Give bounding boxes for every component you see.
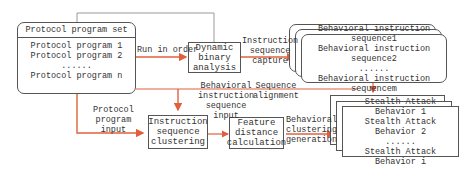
protocol-program-item: Protocol program 1: [18, 41, 135, 51]
node-label: calculation: [227, 138, 286, 148]
label-line: Behavioral: [286, 115, 337, 125]
label-line: Instruction: [242, 36, 298, 46]
node-label: clustering: [151, 137, 205, 147]
label-line: Behavioral: [198, 81, 254, 91]
stealth-item: Stealth Attack Behavior i: [343, 147, 458, 167]
sequence-item: Behavioral instruction sequence1: [302, 24, 446, 44]
behavioral-instruction-sequence-input-label: Behavioral instruction sequence input: [198, 81, 254, 121]
behavioral-sequence-list: Behavioral instruction sequence1 Behavio…: [301, 34, 447, 83]
node-label: analysis: [193, 63, 236, 73]
behavioral-clustering-generation-label: Behavioral clustering generation: [286, 115, 337, 145]
label-line: alignment: [253, 91, 299, 101]
label-line: clustering: [286, 125, 337, 135]
label-line: sequence: [198, 101, 254, 111]
stealth-item: Stealth Attack Behavior 2: [343, 117, 458, 137]
sequence-alignment-label: Sequence alignment: [253, 81, 299, 101]
label-line: capture: [242, 56, 298, 66]
label-line: program: [93, 115, 134, 125]
sequence-item: Behavioral instruction sequencem: [302, 74, 446, 94]
protocol-program-set: Protocol program set Protocol program 1 …: [17, 22, 136, 94]
stealth-item: Stealth Attack Behavior 1: [343, 97, 458, 117]
run-in-order-label: Run in order: [137, 45, 198, 55]
protocol-program-item: Protocol program n: [18, 71, 135, 81]
protocol-program-item: Protocol program 2: [18, 51, 135, 61]
node-label: distance: [235, 128, 278, 138]
sequence-ellipsis: ......: [359, 64, 390, 74]
label-line: input: [198, 111, 254, 121]
instruction-sequence-capture-label: Instruction sequence capture: [242, 36, 298, 66]
label-line: Protocol: [93, 105, 134, 115]
label-line: sequence: [242, 46, 298, 56]
label-line: instruction: [198, 91, 254, 101]
label-line: generation: [286, 135, 337, 145]
label-line: Sequence: [253, 81, 299, 91]
sequence-item: Behavioral instruction sequence2: [302, 44, 446, 64]
node-label: Dynamic: [196, 43, 234, 53]
feature-distance-calculation-node: Feature distance calculation: [229, 117, 284, 149]
node-label: sequence: [156, 127, 199, 137]
protocol-program-ellipsis: ......: [18, 61, 135, 71]
node-label: binary: [198, 53, 230, 63]
protocol-program-input-label: Protocol program input: [93, 105, 134, 135]
stealth-ellipsis: ......: [385, 137, 416, 147]
protocol-set-title: Protocol program set: [18, 23, 135, 38]
label-line: input: [93, 125, 134, 135]
stealth-behavior-list: Stealth Attack Behavior 1 Stealth Attack…: [342, 106, 459, 157]
